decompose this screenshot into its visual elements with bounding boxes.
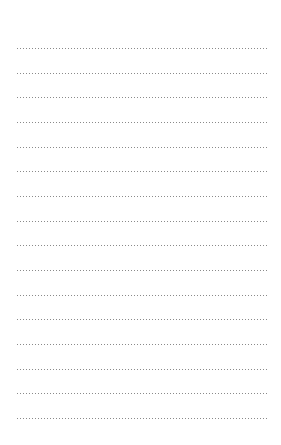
dotted-line <box>16 369 269 370</box>
lined-paper-page <box>0 0 281 445</box>
dotted-line <box>16 73 269 74</box>
dotted-line <box>16 319 269 320</box>
dotted-line <box>16 122 269 123</box>
dotted-line <box>16 147 269 148</box>
dotted-line <box>16 97 269 98</box>
dotted-line <box>16 393 269 394</box>
dotted-line <box>16 270 269 271</box>
dotted-line <box>16 196 269 197</box>
dotted-line <box>16 245 269 246</box>
dotted-line <box>16 221 269 222</box>
dotted-line <box>16 171 269 172</box>
dotted-line <box>16 295 269 296</box>
dotted-line <box>16 344 269 345</box>
dotted-line <box>16 418 269 419</box>
dotted-line <box>16 48 269 49</box>
